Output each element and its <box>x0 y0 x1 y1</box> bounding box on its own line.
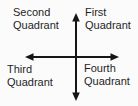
label-second-quadrant: Second Quadrant <box>13 6 59 32</box>
label-third-quadrant: Third Quadrant <box>7 63 53 89</box>
label-first-quadrant-line1: First <box>85 6 131 19</box>
label-second-quadrant-line2: Quadrant <box>13 19 59 32</box>
label-first-quadrant-line2: Quadrant <box>85 19 131 32</box>
x-axis-left-arrow-icon <box>25 53 34 61</box>
y-axis-down-arrow-icon <box>72 93 80 102</box>
label-first-quadrant: First Quadrant <box>85 6 131 32</box>
label-fourth-quadrant-line2: Quadrant <box>84 75 130 88</box>
label-third-quadrant-line1: Third <box>7 63 53 76</box>
label-second-quadrant-line1: Second <box>13 6 59 19</box>
label-fourth-quadrant-line1: Fourth <box>84 62 130 75</box>
y-axis-up-arrow-icon <box>72 13 80 22</box>
quadrant-diagram: Second Quadrant First Quadrant Third Qua… <box>0 0 138 106</box>
label-fourth-quadrant: Fourth Quadrant <box>84 62 130 88</box>
label-third-quadrant-line2: Quadrant <box>7 76 53 89</box>
x-axis-right-arrow-icon <box>111 53 120 61</box>
